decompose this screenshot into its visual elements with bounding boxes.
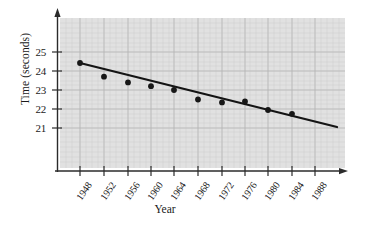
y-axis-title: Time (seconds) (19, 9, 31, 129)
data-point (265, 107, 271, 113)
y-axis-arrowhead (54, 8, 60, 17)
data-point (195, 97, 201, 103)
x-axis-arrowhead (339, 168, 348, 174)
data-point (77, 60, 83, 66)
data-point (289, 111, 295, 117)
data-point (171, 87, 177, 93)
data-point (242, 99, 248, 105)
data-point (148, 83, 154, 89)
data-point (101, 74, 107, 80)
data-point (125, 80, 131, 86)
x-axis-title: Year (0, 203, 330, 215)
data-point (219, 100, 225, 106)
